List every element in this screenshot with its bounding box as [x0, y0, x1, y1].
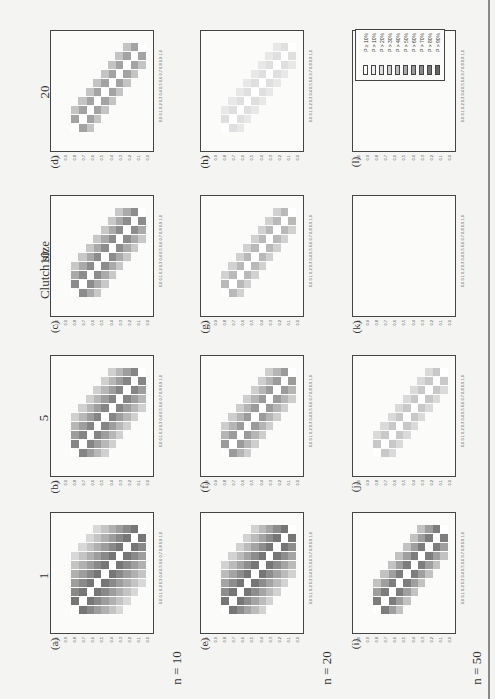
heatmap-cell — [78, 588, 86, 596]
heatmap-cell — [71, 115, 79, 123]
heatmap-cell — [265, 368, 273, 376]
heatmap-cell — [123, 422, 131, 430]
heatmap-cell — [243, 262, 251, 270]
heatmap-cell — [280, 43, 288, 51]
heatmap-cell — [243, 106, 251, 114]
legend-swatch — [363, 65, 368, 75]
heatmap-cell — [123, 588, 131, 596]
heatmap-cell — [236, 115, 244, 123]
heatmap-cell — [78, 561, 86, 569]
heatmap-cell — [273, 70, 281, 78]
tick-label: 0.4 — [109, 320, 114, 326]
y-axis-tick-column: 1.00.90.80.70.60.50.40.30.20.10.0 — [204, 155, 300, 161]
heatmap-cell — [93, 431, 101, 439]
heatmap-cell — [243, 552, 251, 560]
heatmap-cell — [287, 552, 295, 560]
heatmap-cell — [101, 588, 109, 596]
tick-label: 0.3 — [268, 320, 273, 326]
heatmap-cell — [221, 124, 229, 132]
panel-label-a: (a) — [48, 638, 60, 650]
heatmap-cell — [417, 386, 425, 394]
heatmap-cell — [221, 561, 229, 569]
heatmap-cell — [71, 280, 79, 288]
heatmap-cell — [137, 543, 145, 551]
heatmap-cell — [93, 597, 101, 605]
heatmap-cell — [287, 226, 295, 234]
heatmap-cell — [78, 552, 86, 560]
heatmap-cell — [439, 525, 447, 533]
tick-label: 0.1 — [286, 637, 291, 643]
tick-label: 0.7 — [231, 637, 236, 643]
heatmap-cell — [388, 561, 396, 569]
heatmap-cell — [221, 440, 229, 448]
heatmap-cell — [101, 262, 109, 270]
heatmap-cell — [78, 124, 86, 132]
heatmap-cell — [388, 579, 396, 587]
heatmap-cell — [115, 431, 123, 439]
heatmap-cell — [123, 404, 131, 412]
heatmap-cell — [108, 579, 116, 587]
tick-label: 0.4 — [411, 480, 416, 486]
heatmap-cell — [273, 226, 281, 234]
heatmap-cell — [123, 217, 131, 225]
heatmap-cell — [115, 525, 123, 533]
heatmap-cell — [130, 543, 138, 551]
heatmap-cell — [251, 431, 259, 439]
heatmap-cell — [130, 217, 138, 225]
heatmap-cell — [273, 588, 281, 596]
heatmap-cell — [115, 413, 123, 421]
sample-size-label-n10: n = 10 — [169, 651, 185, 684]
panel-label-e: (e) — [198, 638, 210, 650]
heatmap-cell — [71, 588, 79, 596]
heatmap-cell — [280, 525, 288, 533]
heatmap-cell — [78, 440, 86, 448]
heatmap-cell — [439, 377, 447, 385]
heatmap-cell — [123, 570, 131, 578]
heatmap-cell — [115, 226, 123, 234]
heatmap-cell — [403, 552, 411, 560]
tick-label: 0.7 — [231, 155, 236, 161]
legend-label: P > 30% — [387, 33, 393, 52]
heatmap-cell — [115, 534, 123, 542]
heatmap-cell — [425, 377, 433, 385]
heatmap-cell — [410, 534, 418, 542]
x-axis-tick-labels: 0.0 0.1 0.2 0.3 0.4 0.5 0.6 0.7 0.8 0.9 … — [308, 532, 313, 604]
heatmap-cell — [403, 543, 411, 551]
heatmap-cell — [236, 97, 244, 105]
heatmap-cell — [123, 235, 131, 243]
heatmap-cell — [273, 368, 281, 376]
heatmap-cell — [287, 208, 295, 216]
heatmap-cell — [395, 552, 403, 560]
heatmap-cell — [108, 235, 116, 243]
tick-label: 0.9 — [213, 155, 218, 161]
heatmap-cell — [280, 561, 288, 569]
heatmap-cell — [228, 579, 236, 587]
heatmap-cell — [221, 579, 229, 587]
tick-label: 0.6 — [90, 480, 95, 486]
heatmap-cell — [410, 588, 418, 596]
heatmap-cell — [273, 235, 281, 243]
heatmap-cell — [265, 386, 273, 394]
tick-label: 0.6 — [240, 637, 245, 643]
heatmap-cell — [123, 561, 131, 569]
heatmap-cell — [258, 579, 266, 587]
y-axis-tick-column: 1.00.90.80.70.60.50.40.30.20.10.0 — [204, 320, 300, 326]
heatmap-cell — [258, 404, 266, 412]
heatmap-cell — [123, 413, 131, 421]
heatmap-cell — [236, 588, 244, 596]
heatmap-cell — [265, 61, 273, 69]
tick-label: 0.0 — [145, 480, 150, 486]
heatmap-cell — [273, 395, 281, 403]
heatmap-cell — [115, 52, 123, 60]
heatmap-cell — [388, 440, 396, 448]
heatmap-cell — [228, 262, 236, 270]
heatmap-cell — [280, 552, 288, 560]
tick-label: 0.0 — [447, 155, 452, 161]
heatmap-cell — [93, 440, 101, 448]
heatmap-cell — [123, 43, 131, 51]
heatmap-cell — [221, 271, 229, 279]
tick-label: 0.8 — [374, 155, 379, 161]
tick-label: 0.8 — [72, 637, 77, 643]
legend-label: P > 80% — [427, 33, 433, 52]
heatmap-cell — [410, 543, 418, 551]
